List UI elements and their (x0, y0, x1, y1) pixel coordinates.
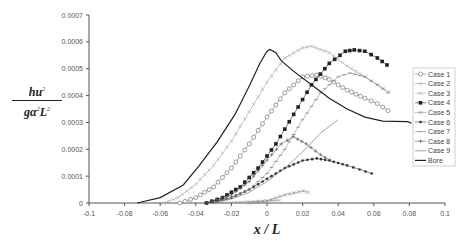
legend-label: Case 9 (428, 147, 450, 154)
legend-label: Bore (428, 157, 443, 164)
x-tick-label: 0 (265, 210, 269, 217)
series-case-1 (178, 73, 390, 205)
x-tick-label: 0.1 (440, 210, 450, 217)
y-tick-label: 0.0003 (62, 119, 84, 126)
y-tick-label: 0.0002 (62, 146, 84, 153)
series-case-4 (205, 48, 389, 205)
x-tick-label: -0.04 (188, 210, 204, 217)
x-tick-label: -0.06 (152, 210, 168, 217)
legend-label: Case 1 (428, 71, 450, 78)
x-axis-title: x / L (253, 222, 280, 237)
y-tick-label: 0.0006 (62, 38, 84, 45)
y-axis-title-denominator: gα2L2 (8, 101, 66, 119)
series-case-3 (162, 44, 391, 204)
plot-series (137, 44, 411, 205)
series-case-7 (212, 73, 390, 203)
x-tick-label: 0.06 (367, 210, 381, 217)
line-chart: -0.1-0.08-0.06-0.04-0.0200.020.040.060.0… (0, 0, 469, 241)
x-tick-label: -0.02 (223, 210, 239, 217)
x-tick-label: -0.1 (83, 210, 95, 217)
y-tick-label: 0.0001 (62, 173, 84, 180)
y-tick-label: 0.0005 (62, 65, 84, 72)
legend-label: Case 7 (428, 128, 450, 135)
y-axis-title: hu2 gα2L2 (8, 82, 66, 119)
y-tick-label: 0 (79, 200, 83, 207)
x-tick-label: 0.04 (331, 210, 345, 217)
legend-label: Case 3 (428, 90, 450, 97)
legend-label: Case 4 (428, 99, 450, 106)
legend-label: Case 2 (428, 80, 450, 87)
legend: Case 1Case 2Case 3Case 4Case 5Case 6Case… (413, 68, 455, 166)
x-tick-label: -0.08 (117, 210, 133, 217)
legend-label: Case 6 (428, 119, 450, 126)
legend-label: Case 5 (428, 109, 450, 116)
legend-label: Case 8 (428, 138, 450, 145)
y-axis-title-numerator: hu2 (8, 82, 66, 100)
axes: -0.1-0.08-0.06-0.04-0.0200.020.040.060.0… (62, 12, 450, 218)
y-tick-label: 0.0007 (62, 12, 84, 19)
x-tick-label: 0.08 (403, 210, 417, 217)
series-case-8 (205, 135, 332, 205)
x-tick-label: 0.02 (296, 210, 310, 217)
